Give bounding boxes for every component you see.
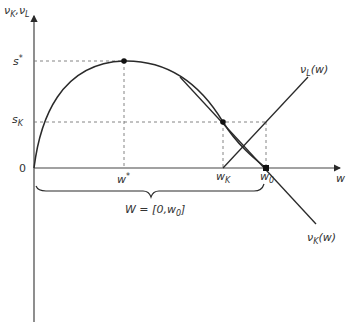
interval-label: W = [0,w0]	[125, 203, 185, 218]
s-k-point	[220, 119, 226, 125]
nu-k-line	[180, 77, 316, 224]
guide-lines	[34, 61, 266, 168]
interval-brace	[36, 184, 264, 197]
w-0-label: w0	[260, 170, 274, 185]
w-star-label: w*	[117, 172, 130, 186]
nu-l-line	[223, 77, 308, 168]
nu-l-label: νL(w)	[300, 63, 328, 78]
hump-curve	[34, 61, 266, 168]
w-k-label: wK	[216, 170, 231, 185]
s-star-label: s*	[13, 54, 23, 68]
y-axis-label: νK,νL	[4, 4, 30, 19]
x-axis-label: w	[336, 172, 345, 185]
peak-point	[121, 58, 127, 64]
diagram-canvas: νK,νL s* sK 0 w* wK w0 w νL(w) νK(w) W =…	[0, 0, 356, 331]
zero-label: 0	[19, 162, 26, 175]
s-k-label: sK	[12, 113, 24, 128]
nu-k-label: νK(w)	[307, 231, 336, 246]
